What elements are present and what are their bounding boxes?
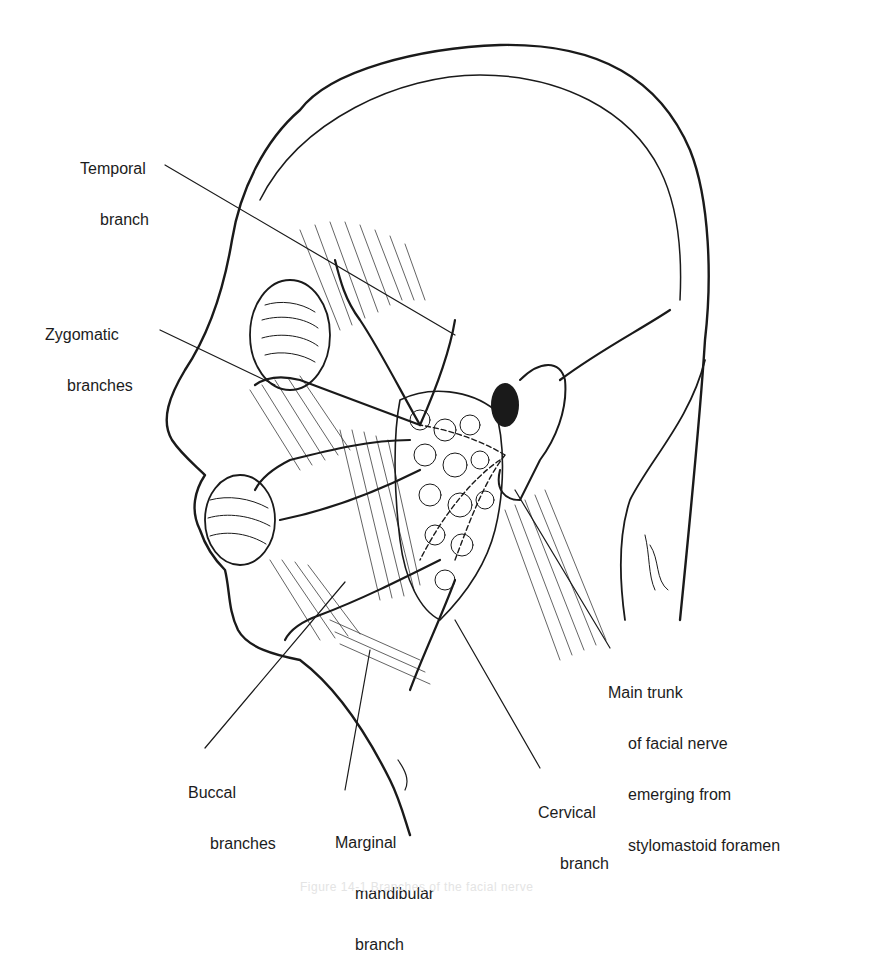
artist-signature bbox=[645, 535, 668, 590]
label-marginal-mandibular-branch: Marginal mandibular branch bbox=[335, 800, 434, 954]
ear-canal bbox=[491, 383, 519, 427]
label-line: branch bbox=[538, 855, 609, 872]
label-zygomatic-branches: Zygomatic branches bbox=[45, 292, 133, 428]
label-line: Temporal bbox=[80, 160, 149, 177]
label-line: emerging from bbox=[608, 786, 780, 803]
label-buccal-branches: Buccal branches bbox=[188, 750, 276, 886]
label-line: Marginal bbox=[335, 834, 434, 851]
orbicularis-oculi bbox=[250, 280, 330, 390]
label-main-trunk: Main trunk of facial nerve emerging from… bbox=[608, 650, 780, 888]
label-line: of facial nerve bbox=[608, 735, 780, 752]
label-line: branch bbox=[335, 936, 434, 953]
orbicularis-oris bbox=[205, 475, 275, 565]
label-line: Cervical bbox=[538, 804, 609, 821]
figure-caption: Figure 14-1 Branches of the facial nerve bbox=[300, 880, 533, 894]
label-line: Zygomatic bbox=[45, 326, 133, 343]
label-cervical-branch: Cervical branch bbox=[538, 770, 609, 906]
label-line: branch bbox=[80, 211, 149, 228]
label-line: stylomastoid foramen bbox=[608, 837, 780, 854]
label-temporal-branch: Temporal branch bbox=[80, 126, 149, 262]
scalp-inner bbox=[260, 75, 681, 300]
label-line: branches bbox=[188, 835, 276, 852]
label-line: Main trunk bbox=[608, 684, 780, 701]
label-line: branches bbox=[45, 377, 133, 394]
label-line: Buccal bbox=[188, 784, 276, 801]
